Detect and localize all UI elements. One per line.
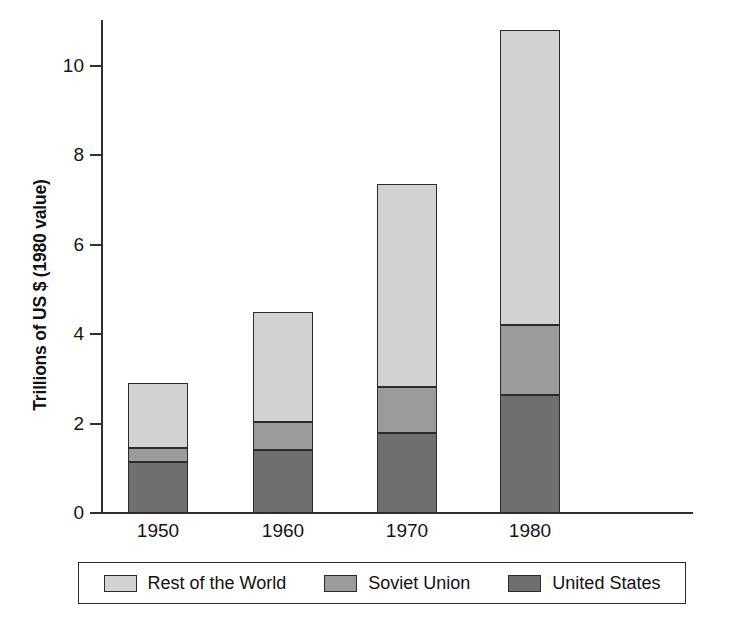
y-axis-tick-label-10: 10 — [38, 55, 84, 77]
bar-segment-soviet-union-1980 — [500, 325, 560, 395]
y-axis-tick-2 — [90, 423, 101, 425]
bar-segment-rest-of-the-world-1970 — [377, 184, 437, 387]
bar-1980 — [500, 0, 560, 513]
bar-1960 — [253, 0, 313, 513]
bar-segment-soviet-union-1960 — [253, 422, 313, 450]
bar-1950 — [128, 0, 188, 513]
legend-entry-rest-of-the-world: Rest of the World — [104, 573, 287, 594]
bar-1970 — [377, 0, 437, 513]
x-axis-tick-label-1970: 1970 — [347, 520, 467, 542]
bar-segment-rest-of-the-world-1980 — [500, 30, 560, 325]
y-axis-tick-6 — [90, 244, 101, 246]
legend-swatch-icon — [324, 575, 357, 592]
bar-segment-soviet-union-1950 — [128, 448, 188, 461]
legend-swatch-icon — [508, 575, 541, 592]
y-axis-tick-10 — [90, 65, 101, 67]
y-axis-tick-label-8: 8 — [38, 144, 84, 166]
y-axis-tick-label-6: 6 — [38, 234, 84, 256]
y-axis-tick-label-2: 2 — [38, 413, 84, 435]
bar-segment-united-states-1950 — [128, 462, 188, 513]
legend-label: Rest of the World — [148, 573, 287, 594]
legend-label: United States — [552, 573, 660, 594]
y-axis-tick-label-4: 4 — [38, 323, 84, 345]
y-axis-tick-4 — [90, 333, 101, 335]
bar-segment-rest-of-the-world-1960 — [253, 312, 313, 422]
legend-swatch-icon — [104, 575, 137, 592]
x-axis-tick-label-1950: 1950 — [98, 520, 218, 542]
y-axis-tick-0 — [90, 512, 101, 514]
legend-entry-soviet-union: Soviet Union — [324, 573, 470, 594]
bar-segment-united-states-1970 — [377, 433, 437, 513]
bar-segment-united-states-1960 — [253, 450, 313, 513]
x-axis-tick-label-1980: 1980 — [470, 520, 590, 542]
bar-segment-rest-of-the-world-1950 — [128, 383, 188, 448]
y-axis-line — [101, 20, 103, 514]
y-axis-tick-8 — [90, 154, 101, 156]
bar-segment-united-states-1980 — [500, 395, 560, 513]
stacked-bar-chart-figure: Trillions of US $ (1980 value) 0246810 1… — [0, 0, 733, 630]
x-axis-tick-label-1960: 1960 — [223, 520, 343, 542]
legend-entry-united-states: United States — [508, 573, 660, 594]
y-axis-tick-label-0: 0 — [38, 502, 84, 524]
chart-legend: Rest of the WorldSoviet UnionUnited Stat… — [78, 562, 686, 604]
legend-label: Soviet Union — [368, 573, 470, 594]
bar-segment-soviet-union-1970 — [377, 387, 437, 433]
